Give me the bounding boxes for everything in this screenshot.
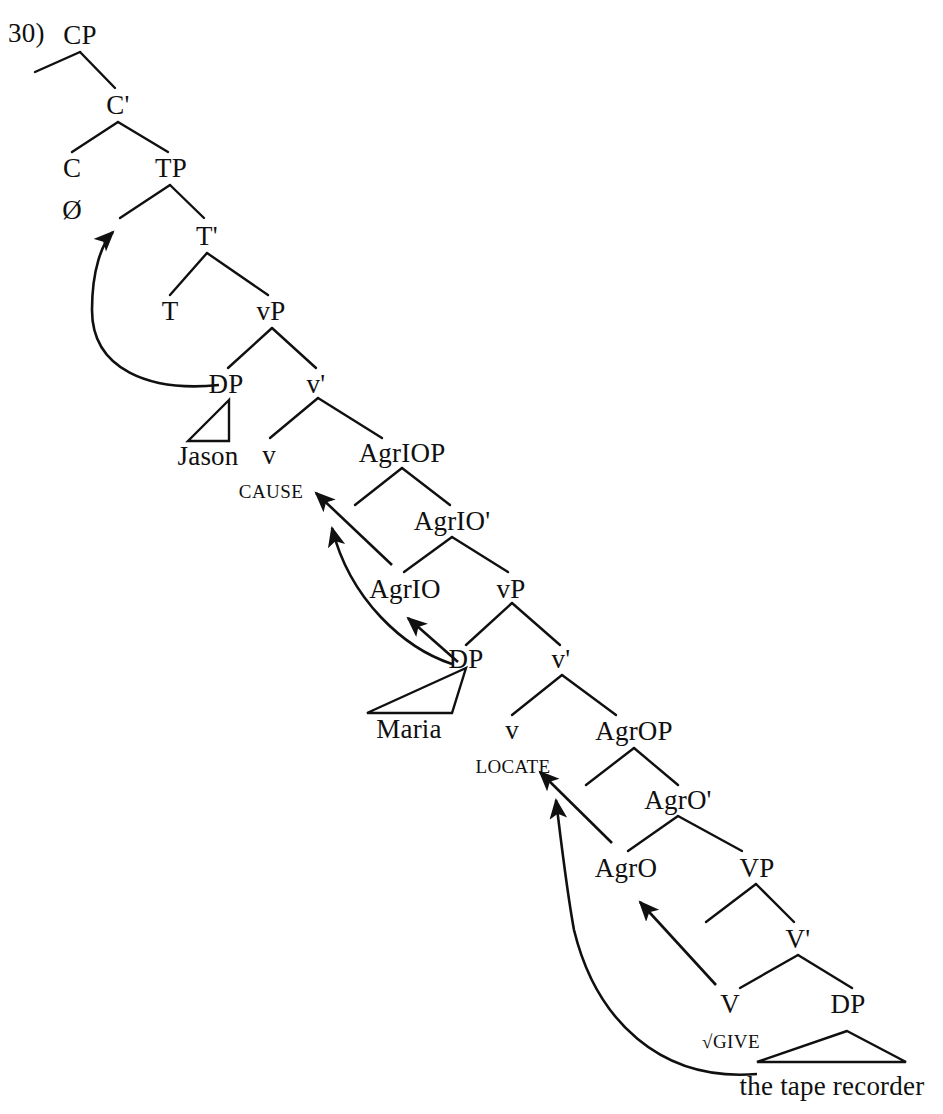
- movement-arrows: [92, 232, 757, 1075]
- triangle-maria: [367, 668, 466, 713]
- arrow-give-to-agro: [640, 902, 716, 985]
- node-agrio-bar: AgrIO': [414, 508, 491, 535]
- terminal-cause: CAUSE: [239, 482, 303, 501]
- node-v-bar-mid: v': [552, 646, 571, 673]
- node-agrop: AgrOP: [595, 718, 673, 745]
- syntax-tree-figure: 30) CP C' C Ø TP T' T vP DP Jason v' v C…: [0, 0, 943, 1114]
- node-c: C: [63, 155, 81, 182]
- node-vp-mid: vP: [497, 576, 526, 603]
- arrow-subject-raising: [92, 232, 219, 386]
- terminal-the-tape-recorder: the tape recorder: [740, 1073, 925, 1100]
- node-vp-low: VP: [740, 855, 775, 882]
- node-v-bar-high: v': [307, 371, 326, 398]
- node-t: T: [162, 298, 179, 325]
- node-tp: TP: [155, 155, 187, 182]
- node-dp-subject: DP: [209, 371, 244, 398]
- node-agrio: AgrIO: [369, 576, 440, 603]
- arrow-agro-to-locate: [540, 772, 612, 843]
- node-dp-object: DP: [831, 991, 866, 1018]
- node-v-high: v: [262, 442, 276, 469]
- node-cp: CP: [63, 22, 96, 49]
- node-agriop: AgrIOP: [359, 440, 446, 467]
- terminal-jason: Jason: [178, 443, 239, 470]
- terminal-maria: Maria: [376, 716, 441, 743]
- terminal-locate: LOCATE: [475, 757, 550, 776]
- example-number: 30): [8, 20, 45, 47]
- node-dp-indirect: DP: [449, 646, 484, 673]
- node-t-bar: T': [196, 223, 218, 250]
- node-agro-bar: AgrO': [644, 787, 711, 814]
- triangle-the-tape-recorder: [757, 1031, 906, 1062]
- node-v-bar-low: V': [786, 926, 811, 953]
- node-agro: AgrO: [595, 855, 657, 882]
- node-vp-high: vP: [257, 298, 286, 325]
- node-v-low: V: [720, 991, 740, 1018]
- node-c-bar: C': [106, 92, 129, 119]
- node-v-mid: v: [505, 717, 519, 744]
- terminal-c-null: Ø: [62, 197, 82, 224]
- arrow-agrio-to-cause: [316, 493, 392, 565]
- triangle-jason: [188, 400, 229, 441]
- terminal-give: √GIVE: [702, 1032, 760, 1051]
